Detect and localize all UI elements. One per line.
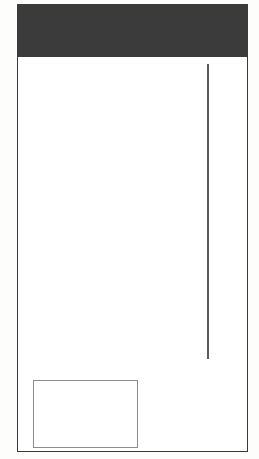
stacked-bar-series [46, 64, 207, 358]
figure [0, 0, 259, 459]
legend [33, 380, 138, 448]
chart-title-bar [18, 5, 247, 57]
plot-area [46, 64, 207, 358]
y-axis-line [207, 64, 209, 359]
